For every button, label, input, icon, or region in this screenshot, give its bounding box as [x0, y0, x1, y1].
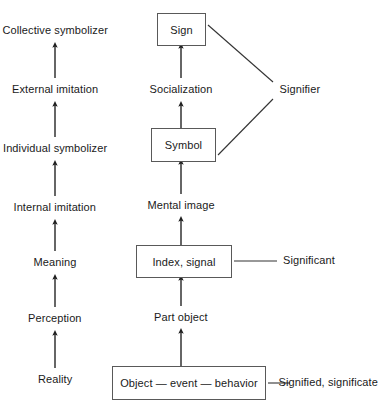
process-label-socialization: Socialization [150, 83, 213, 96]
process-label-part-object: Part object [154, 311, 208, 324]
stage-label-perception: Perception [28, 312, 82, 325]
stage-label-individual-symbolizer: Individual symbolizer [3, 142, 107, 155]
signifier-to-sign [208, 25, 273, 82]
signifier-to-symbol [218, 99, 273, 155]
process-label-mental-image: Mental image [148, 199, 215, 212]
box-symbol: Symbol [151, 128, 216, 162]
term-label-signified-significate: Signified, significate [279, 376, 378, 389]
term-label-significant: Significant [283, 254, 335, 267]
semiotic-diagram: Collective symbolizerExternal imitationI… [0, 0, 391, 415]
stage-label-reality: Reality [38, 373, 72, 386]
box-object-event-behavior: Object — event — behavior [112, 366, 266, 400]
stage-label-internal-imitation: Internal imitation [14, 201, 97, 214]
stage-label-meaning: Meaning [34, 256, 77, 269]
term-connectors-group [208, 25, 290, 383]
box-index-signal: Index, signal [136, 245, 232, 278]
term-label-signifier: Signifier [280, 83, 321, 96]
stage-label-external-imitation: External imitation [12, 83, 98, 96]
stage-label-collective-symbolizer: Collective symbolizer [3, 24, 108, 37]
box-sign: Sign [157, 13, 206, 46]
